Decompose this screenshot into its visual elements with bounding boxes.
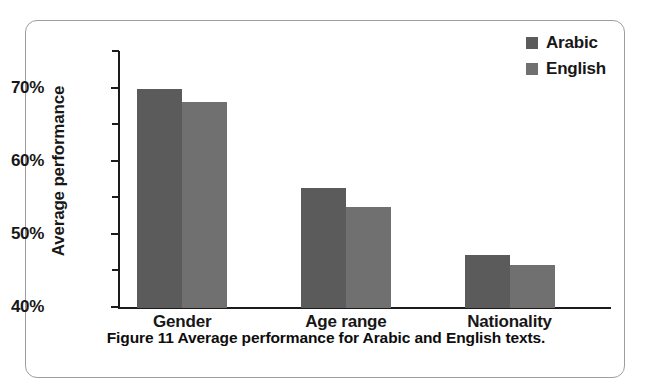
bar-age-range-english (346, 207, 391, 308)
y-tick-major-40 (111, 306, 119, 308)
legend-label-arabic: Arabic (546, 33, 598, 53)
figure-frame: Average performance 40%50%60%70% GenderA… (25, 20, 625, 378)
bar-gender-english (182, 102, 227, 308)
y-tick-label-70: 70% (0, 78, 44, 98)
y-tick-label-60: 60% (0, 151, 44, 171)
y-tick-minor-65 (112, 123, 119, 125)
legend-swatch-english (526, 63, 538, 75)
bar-gender-arabic (137, 89, 182, 308)
figure-caption-number: Figure 11 (107, 329, 178, 346)
legend-item-arabic: Arabic (526, 33, 626, 53)
legend-label-english: English (546, 59, 606, 79)
bar-age-range-arabic (301, 188, 346, 308)
y-tick-minor-55 (112, 196, 119, 198)
y-tick-major-60 (111, 160, 119, 162)
legend-item-english: English (526, 59, 626, 79)
y-tick-major-50 (111, 233, 119, 235)
legend-swatch-arabic (526, 37, 538, 49)
figure-caption-text: Average performance for Arabic and Engli… (178, 329, 546, 346)
bar-nationality-arabic (465, 255, 510, 308)
chart-legend: Arabic English (526, 33, 626, 85)
y-tick-minor-75 (112, 50, 119, 52)
figure-caption: Figure 11 Average performance for Arabic… (26, 329, 626, 347)
y-tick-label-40: 40% (0, 297, 44, 317)
bars-layer (120, 51, 611, 308)
y-tick-label-50: 50% (0, 224, 44, 244)
chart-plot-area: Average performance 40%50%60%70% GenderA… (26, 21, 626, 321)
y-tick-minor-45 (112, 269, 119, 271)
y-axis-label: Average performance (49, 76, 69, 266)
bar-nationality-english (510, 265, 555, 308)
y-tick-major-70 (111, 87, 119, 89)
